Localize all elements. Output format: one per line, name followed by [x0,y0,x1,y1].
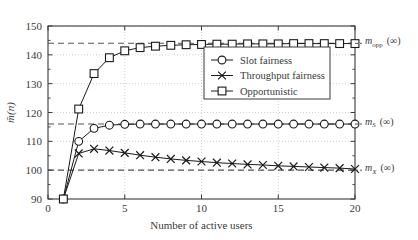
line-chart: 0510152090100110120130140150Number of ac… [0,0,418,240]
y-tick-label: 140 [26,49,43,61]
series-marker [290,120,298,128]
asymptote-labels: mopp (∞)mS (∞)mX (∞) [355,35,401,175]
series-marker [167,120,175,128]
series-marker [121,120,129,128]
series-marker [75,105,83,113]
series-marker [182,120,190,128]
legend-label: Opportunistic [240,86,298,97]
series-marker [182,41,190,49]
y-tick-label: 130 [26,78,43,90]
series-marker [90,124,98,132]
series-marker [198,120,206,128]
series-marker [305,120,313,128]
series-marker [167,41,175,49]
series-marker [228,120,236,128]
legend-item[interactable]: Opportunistic [211,86,298,97]
y-tick-label: 100 [26,164,43,176]
asymptote-label: mS (∞) [365,116,394,129]
x-tick-label: 0 [45,202,51,214]
series-throughput-fairness [59,145,358,203]
series-slot-fairness [59,120,358,203]
series-marker [75,137,83,145]
series-marker [320,40,328,48]
figure-container: 0510152090100110120130140150Number of ac… [0,0,418,240]
y-axis-title: m̄(n) [4,102,17,123]
legend-label: Slot fairness [240,55,292,66]
asymptote-label: mopp (∞) [365,35,401,48]
series-marker [136,44,144,52]
x-tick-label: 20 [350,202,362,214]
x-tick-label: 10 [196,202,208,214]
series-marker [305,40,313,48]
asymptote-label: mX (∞) [365,162,394,175]
series-marker [290,40,298,48]
x-tick-label: 5 [122,202,128,214]
series-marker [121,47,129,55]
series-marker [336,120,344,128]
series-marker [152,42,160,50]
series-marker [106,121,114,129]
y-axis-title-text: m̄(n) [4,102,17,123]
series-marker [244,120,252,128]
legend-marker [218,87,226,95]
y-tick-label: 120 [26,107,43,119]
series-line [63,149,355,199]
series-marker [259,120,267,128]
series-marker [152,120,160,128]
series-marker [136,120,144,128]
y-tick-label: 90 [31,193,43,205]
x-tick-label: 15 [273,202,285,214]
legend-label: Throughput fairness [240,70,325,81]
y-tick-label: 110 [26,135,43,147]
legend: Slot fairnessThroughput fairnessOpportun… [204,47,330,99]
legend-marker [218,56,226,64]
legend-item[interactable]: Slot fairness [211,55,292,66]
series-marker [320,120,328,128]
series-marker [59,195,67,203]
series-marker [106,54,114,62]
series-marker [213,120,221,128]
series-line [63,124,355,199]
y-tick-label: 150 [26,20,43,32]
x-axis-title: Number of active users [150,219,252,231]
series-marker [336,40,344,48]
series-marker [90,70,98,78]
series-marker [274,120,282,128]
